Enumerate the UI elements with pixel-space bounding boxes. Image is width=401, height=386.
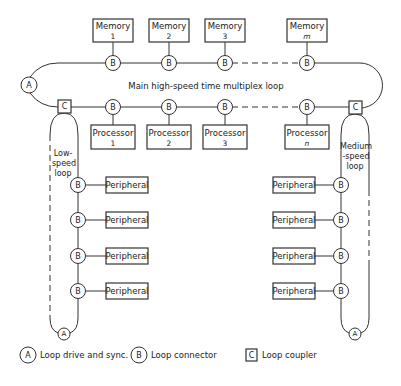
memory-title: Memory [208,21,243,31]
memory-index: m [303,32,310,41]
low-speed-loop-label-2: speed [52,159,76,168]
legend-drive-symbol: A [25,351,31,360]
processor-title: Processor [149,128,190,138]
legend-coupler-label: Loop coupler [262,350,317,360]
low-speed-loop-label-3: loop [54,169,71,178]
main-loop-drive-node: A [21,77,37,93]
connector-letter: B [304,103,310,112]
processor-index: 2 [167,139,172,148]
legend: A Loop drive and sync. B Loop connector … [20,347,317,363]
peripheral-unit: BPeripheral [273,177,349,193]
peripheral-label: Peripheral [106,286,149,296]
medium-speed-loop-label-3: loop [346,162,363,171]
memory-title: Memory [290,21,325,31]
connector-letter: B [166,59,172,68]
connector-letter: B [222,103,228,112]
connector-letter: B [338,216,344,225]
peripheral-label: Peripheral [106,215,149,225]
connector-letter: B [304,59,310,68]
coupler-letter-right: C [353,103,359,112]
loop-architecture-diagram: Main high-speed time multiplex loop Memo… [0,0,401,386]
processor-index: n [305,139,310,148]
medium-speed-peripherals: BPeripheralBPeripheralBPeripheralBPeriph… [273,177,349,299]
peripheral-unit: BPeripheral [273,283,349,299]
main-loop-label: Main high-speed time multiplex loop [128,81,283,91]
memory-index: 3 [223,32,228,41]
peripheral-label: Peripheral [273,180,316,190]
legend-drive-label: Loop drive and sync. [40,350,128,360]
connector-letter: B [338,181,344,190]
peripheral-unit: BPeripheral [71,177,149,193]
peripheral-unit: BPeripheral [71,283,149,299]
low-speed-loop-bottom-arc-r [70,318,78,333]
connector-letter: B [75,287,81,296]
connector-letter: B [75,252,81,261]
legend-connector-label: Loop connector [151,350,217,360]
medium-speed-loop-label-2: -speed [342,152,369,161]
memory-title: Memory [152,21,187,31]
low-speed-drive-letter: A [62,330,67,338]
peripheral-unit: BPeripheral [71,212,149,228]
medium-speed-loop-bottom-arc-r [361,318,369,333]
low-speed-loop-label-1: Low- [54,149,73,158]
legend-item-connector: B Loop connector [131,347,217,363]
low-speed-loop-top-arc [50,113,78,135]
main-loop-bottom-left-arc [30,93,58,107]
peripheral-unit: BPeripheral [71,248,149,264]
memory-index: 1 [111,32,116,41]
peripheral-unit: BPeripheral [273,212,349,228]
legend-connector-symbol: B [136,351,142,360]
coupler-letter-left: C [62,102,68,111]
medium-speed-loop-bottom-arc [341,318,349,333]
medium-speed-loop-label-1: Medium [340,142,372,151]
processor-title: Processor [93,128,134,138]
memory-index: 2 [167,32,172,41]
drive-node-letter: A [26,81,32,90]
peripheral-label: Peripheral [273,215,316,225]
connector-letter: B [75,181,81,190]
main-loop-right-arc [307,63,383,108]
processor-title: Processor [287,128,328,138]
medium-speed-loop-top-arc [341,114,369,135]
connector-letter: B [75,216,81,225]
peripheral-label: Peripheral [273,286,316,296]
connector-letter: B [166,103,172,112]
legend-coupler-symbol: C [249,351,255,360]
connector-letter: B [222,59,228,68]
peripheral-label: Peripheral [106,180,149,190]
processor-title: Processor [205,128,246,138]
peripheral-unit: BPeripheral [273,248,349,264]
connector-letter: B [338,287,344,296]
legend-item-drive: A Loop drive and sync. [20,347,128,363]
peripheral-label: Peripheral [273,251,316,261]
low-speed-peripherals: BPeripheralBPeripheralBPeripheralBPeriph… [71,177,149,299]
low-speed-loop-coupler: C [58,100,71,113]
processor-index: 1 [111,139,116,148]
peripheral-label: Peripheral [106,251,149,261]
legend-item-coupler: C Loop coupler [246,349,317,361]
connector-letter: B [338,252,344,261]
connector-letter: B [110,59,116,68]
low-speed-loop-bottom-arc [50,318,58,333]
connector-letter: B [110,103,116,112]
medium-speed-drive-letter: A [353,330,358,338]
medium-speed-loop-coupler: C [349,101,362,114]
memory-title: Memory [96,21,131,31]
main-loop-top-left-arc [30,63,113,77]
processor-index: 3 [223,139,228,148]
